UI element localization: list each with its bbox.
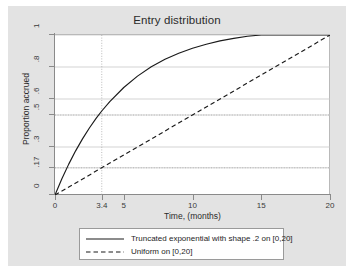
y-tick-label-text: .6 [32,88,42,109]
y-tick-label-text: .17 [32,156,42,177]
legend-key-solid-icon [86,234,124,244]
x-tick-label: 20 [315,201,345,210]
y-tick-label-text: 1 [32,24,42,45]
plot-area [55,34,330,194]
y-tick-mark [49,66,54,67]
y-tick-mark [49,34,54,35]
legend-key-dashed-icon [86,247,124,257]
y-tick-mark [49,146,54,147]
chart-screenshot: Entry distribution 0.17.3.5.6.81 03.4510… [0,0,355,272]
legend-entry: Uniform on [0,20] [86,245,192,258]
x-axis-title: Time, (months) [55,211,330,221]
legend-label: Truncated exponential with shape .2 on [… [131,234,293,243]
x-tick-mark [193,195,194,200]
x-tick-label: 10 [178,201,208,210]
chart-legend: Truncated exponential with shape .2 on [… [79,228,284,260]
y-tick-label-text: .3 [32,136,42,157]
y-tick-mark [49,98,54,99]
gridlines [55,35,330,168]
legend-entry: Truncated exponential with shape .2 on [… [86,232,293,245]
y-tick-label-text: .8 [32,56,42,77]
y-tick-mark [49,114,54,115]
legend-label: Uniform on [0,20] [131,247,192,256]
x-tick-mark [102,195,103,200]
y-tick-mark [49,167,54,168]
y-axis-title: Proportion accrued [21,49,31,169]
y-tick-label: 0 [26,189,47,199]
chart-title: Entry distribution [8,14,346,26]
x-tick-label: 15 [246,201,276,210]
x-tick-label: 5 [109,201,139,210]
y-tick-label: 1 [26,29,47,39]
x-tick-mark [55,195,56,200]
plot-svg [55,35,330,195]
x-tick-mark [261,195,262,200]
x-tick-label: 0 [40,201,70,210]
x-tick-mark [330,195,331,200]
y-tick-mark [49,194,54,195]
x-tick-mark [124,195,125,200]
graph-panel: Entry distribution 0.17.3.5.6.81 03.4510… [8,6,346,266]
